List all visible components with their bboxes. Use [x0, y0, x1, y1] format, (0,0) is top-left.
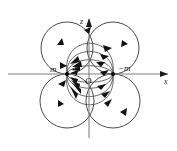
origin-label: O [85, 76, 92, 86]
dipole-field-diagram: m −m O z x [0, 0, 177, 151]
right-pole-label: −m [118, 63, 131, 73]
left-pole-label: m [50, 64, 57, 74]
arrowhead-lower-right-1 [97, 84, 106, 90]
right-pole-dot [111, 72, 115, 76]
z-axis-label: z [79, 17, 84, 26]
x-axis-label: x [163, 77, 168, 86]
arrowhead-outer-left-upper [57, 38, 64, 45]
figure-root: m −m O z x [0, 0, 177, 151]
arrowhead-lower-right-3 [104, 99, 112, 107]
z-axis-arrowhead [86, 18, 92, 27]
arrowhead-left-pole-out-1 [58, 80, 66, 87]
arrowhead-outer-right-lower [120, 108, 127, 116]
arrowhead-outer-top [84, 27, 91, 34]
arrowhead-outer-right-upper [121, 40, 128, 47]
left-pole-dot [65, 72, 69, 76]
arrowhead-left-pole-in-1 [60, 62, 67, 69]
arrowhead-outer-left-lower [58, 100, 64, 107]
